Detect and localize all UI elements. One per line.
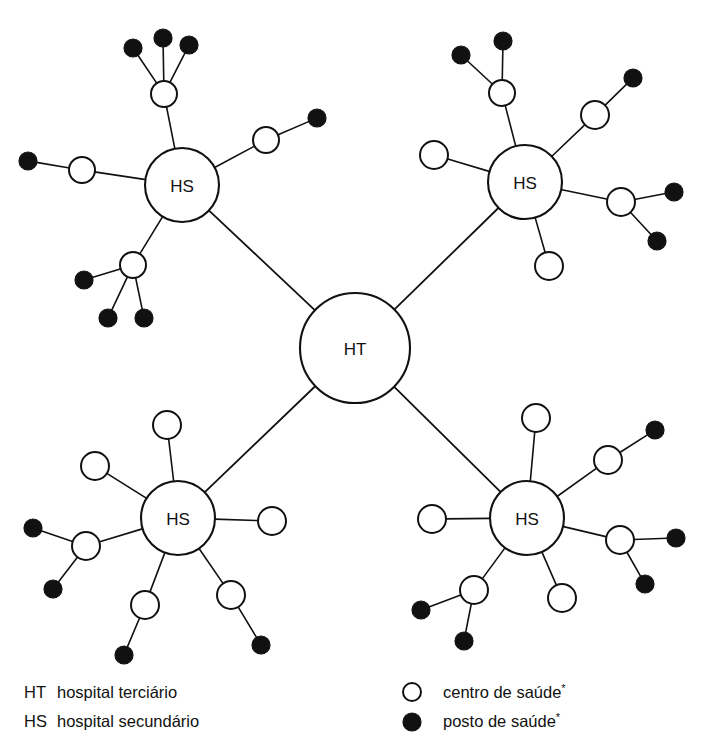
posto-saude-no-2[interactable] xyxy=(154,29,172,47)
centro-saude-ne-3[interactable] xyxy=(420,141,448,169)
centro-saude-se-6[interactable] xyxy=(418,505,446,533)
posto-saude-no-7[interactable] xyxy=(99,309,117,327)
edge-ht-hs-sudoeste xyxy=(204,386,315,493)
posto-saude-ne-1[interactable] xyxy=(452,46,470,64)
edge-centro-saude-ne-1-to-posto-saude-ne-2 xyxy=(502,49,503,80)
hospital-secundario-sudoeste-label: HS xyxy=(166,510,190,529)
edge-hospital-secundario-sudeste-to-centro-saude-se-5 xyxy=(482,547,505,579)
posto-saude-so-1[interactable] xyxy=(24,519,42,537)
centro-saude-ne-5[interactable] xyxy=(535,252,563,280)
hospital-secundario-nordeste[interactable]: HS xyxy=(488,145,562,219)
edge-hospital-secundario-sudoeste-to-centro-saude-so-1 xyxy=(169,438,174,481)
edge-centro-saude-no-4-to-posto-saude-no-6 xyxy=(92,269,121,278)
edge-hospital-secundario-sudoeste-to-centro-saude-so-4 xyxy=(150,552,165,592)
centro-saude-no-4[interactable] xyxy=(120,252,146,278)
edge-hospital-secundario-nordeste-to-centro-saude-ne-2 xyxy=(551,124,585,156)
edge-centro-saude-se-3-to-posto-saude-se-3 xyxy=(627,552,641,577)
edge-hospital-secundario-sudeste-to-centro-saude-se-2 xyxy=(557,468,597,497)
centro-saude-so-4[interactable] xyxy=(131,591,159,619)
hospital-secundario-sudeste-label: HS xyxy=(515,510,539,529)
open-circle-icon xyxy=(403,683,421,701)
edge-hospital-secundario-noroeste-to-centro-saude-no-3 xyxy=(214,146,255,168)
node-layer: HSHSHSHSHT xyxy=(19,29,685,664)
edge-centro-saude-se-5-to-posto-saude-se-5 xyxy=(466,603,472,632)
legend-label-posto-saude: posto de saúde* xyxy=(443,711,561,730)
edge-ht-hs-nordeste xyxy=(394,208,499,310)
edge-hospital-secundario-sudoeste-to-centro-saude-so-3 xyxy=(99,529,143,542)
edge-ht-hs-sudeste xyxy=(394,386,501,492)
posto-saude-ne-2[interactable] xyxy=(494,32,512,50)
centro-saude-no-1[interactable] xyxy=(151,81,177,107)
posto-saude-so-2[interactable] xyxy=(44,580,62,598)
posto-saude-se-4[interactable] xyxy=(412,601,430,619)
legend-label-centro-saude: centro de saúde* xyxy=(443,682,566,701)
edge-centro-saude-se-2-to-posto-saude-se-1 xyxy=(619,435,647,453)
hospital-secundario-noroeste[interactable]: HS xyxy=(145,148,219,222)
posto-saude-no-8[interactable] xyxy=(135,309,153,327)
centro-saude-so-3[interactable] xyxy=(72,532,100,560)
edge-centro-saude-no-1-to-posto-saude-no-1 xyxy=(138,55,157,84)
centro-saude-ne-4[interactable] xyxy=(607,188,635,216)
edge-centro-saude-no-4-to-posto-saude-no-8 xyxy=(136,277,143,309)
centro-saude-no-2[interactable] xyxy=(69,157,95,183)
edge-centro-saude-no-2-to-posto-saude-no-4 xyxy=(36,162,69,168)
centro-saude-so-1[interactable] xyxy=(153,411,181,439)
posto-saude-se-5[interactable] xyxy=(455,632,473,650)
edge-hospital-secundario-sudeste-to-centro-saude-se-1 xyxy=(530,431,535,481)
hospital-secundario-nordeste-label: HS xyxy=(513,174,537,193)
edge-centro-saude-so-5-to-posto-saude-so-4 xyxy=(238,607,257,638)
edge-hospital-secundario-sudoeste-to-centro-saude-so-5 xyxy=(199,548,224,584)
posto-saude-se-2[interactable] xyxy=(667,529,685,547)
edge-ht-hs-noroeste xyxy=(209,210,316,311)
legend-layer: HT hospital terciário HS hospital secund… xyxy=(24,682,566,731)
edge-hospital-secundario-noroeste-to-centro-saude-no-1 xyxy=(166,106,174,149)
posto-saude-no-4[interactable] xyxy=(19,152,37,170)
centro-saude-se-4[interactable] xyxy=(548,584,576,612)
edge-centro-saude-se-3-to-posto-saude-se-2 xyxy=(633,538,667,539)
centro-saude-so-2[interactable] xyxy=(81,452,109,480)
centro-saude-se-3[interactable] xyxy=(606,526,634,554)
posto-saude-ne-4[interactable] xyxy=(665,183,683,201)
centro-saude-no-3[interactable] xyxy=(253,127,279,153)
filled-circle-icon xyxy=(403,713,421,731)
centro-saude-se-1[interactable] xyxy=(522,404,550,432)
hospital-secundario-noroeste-label: HS xyxy=(170,177,194,196)
legend-code-ht: HT xyxy=(24,683,46,701)
centro-saude-se-2[interactable] xyxy=(594,446,622,474)
edge-centro-saude-ne-2-to-posto-saude-ne-3 xyxy=(605,84,627,106)
centro-saude-ne-1[interactable] xyxy=(489,80,515,106)
legend-desc-hs: hospital secundário xyxy=(57,712,199,730)
legend-desc-ht: hospital terciário xyxy=(57,683,177,701)
posto-saude-no-5[interactable] xyxy=(308,109,326,127)
posto-saude-ne-3[interactable] xyxy=(624,69,642,87)
posto-saude-no-3[interactable] xyxy=(180,36,198,54)
legend-code-hs: HS xyxy=(24,712,47,730)
centro-saude-so-5[interactable] xyxy=(217,581,245,609)
edge-hospital-secundario-noroeste-to-centro-saude-no-2 xyxy=(94,172,146,180)
centro-saude-so-6[interactable] xyxy=(258,507,286,535)
hospital-terciario[interactable]: HT xyxy=(300,293,410,403)
edge-centro-saude-so-3-to-posto-saude-so-1 xyxy=(41,531,73,542)
posto-saude-so-3[interactable] xyxy=(115,646,133,664)
edge-hospital-secundario-sudoeste-to-centro-saude-so-2 xyxy=(106,473,147,498)
posto-saude-no-6[interactable] xyxy=(75,271,93,289)
edge-hospital-secundario-nordeste-to-centro-saude-ne-4 xyxy=(561,189,608,199)
centro-saude-se-5[interactable] xyxy=(460,576,488,604)
centro-saude-ne-2[interactable] xyxy=(581,101,609,129)
edge-hospital-secundario-nordeste-to-centro-saude-ne-5 xyxy=(535,217,545,253)
edge-centro-saude-ne-1-to-posto-saude-ne-1 xyxy=(467,61,493,85)
edge-centro-saude-no-1-to-posto-saude-no-2 xyxy=(163,46,164,81)
edge-hospital-secundario-sudeste-to-centro-saude-se-3 xyxy=(563,526,607,536)
network-graph: HSHSHSHSHT HT hospital terciário HS hosp… xyxy=(0,0,715,739)
edge-centro-saude-no-3-to-posto-saude-no-5 xyxy=(277,121,309,135)
posto-saude-se-3[interactable] xyxy=(636,575,654,593)
edge-centro-saude-no-1-to-posto-saude-no-3 xyxy=(170,53,185,83)
posto-saude-no-1[interactable] xyxy=(124,39,142,57)
edge-hospital-secundario-sudoeste-to-centro-saude-so-6 xyxy=(214,519,258,520)
hospital-secundario-sudeste[interactable]: HS xyxy=(490,481,564,555)
posto-saude-ne-5[interactable] xyxy=(648,232,666,250)
edge-centro-saude-ne-4-to-posto-saude-ne-5 xyxy=(630,212,651,235)
posto-saude-so-4[interactable] xyxy=(252,636,270,654)
posto-saude-se-1[interactable] xyxy=(646,421,664,439)
hospital-secundario-sudoeste[interactable]: HS xyxy=(141,481,215,555)
